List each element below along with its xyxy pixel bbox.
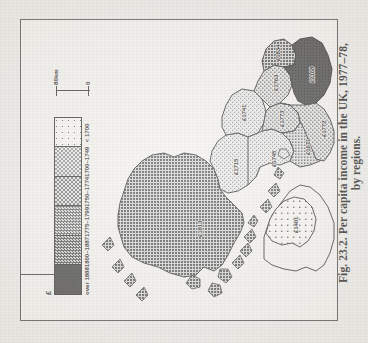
figure-caption-line1: Fig. 23.2. Per capita income in the UK, … <box>337 43 349 283</box>
legend-swatch-bar <box>54 117 82 295</box>
map-label-north: £1715 <box>232 159 239 175</box>
rotated-figure-content: £1813 £1401 £1715 £1741 £1745 £1763 £177… <box>28 19 336 311</box>
figure-plate: £1813 £1401 £1715 £1741 £1745 £1763 £177… <box>20 19 336 319</box>
legend-swatch-under-1700[interactable] <box>55 118 81 147</box>
map-legend: £ over 1888 1800–1887 1775–1799 1750–177… <box>44 119 90 295</box>
legend-label-1775-1799: 1775–1799 <box>83 207 90 237</box>
map-label-north-west: £1745 <box>270 151 277 167</box>
scale-bar-tick-top <box>56 86 57 96</box>
legend-swatch-1800-1887[interactable] <box>55 235 81 265</box>
scale-bar: 80km 0 <box>52 53 92 105</box>
map-label-scotland: £1813 <box>196 221 203 237</box>
legend-label-1700-1749: 1700–1749 <box>83 147 90 177</box>
map-label-yorkshire-humberside: £1741 <box>240 105 247 121</box>
map-label-east-midlands: £1763 <box>272 75 279 91</box>
legend-label-row: over 1888 1800–1887 1775–1799 1750–1774 … <box>83 119 90 295</box>
legend-swatch-1750-1774[interactable] <box>55 176 81 206</box>
map-label-west-midlands: £1773 <box>278 111 285 127</box>
scale-bar-bottom-label: 0 <box>84 82 91 85</box>
legend-label-over-1888: over 1888 <box>83 267 90 295</box>
map-label-south-east: £2168 <box>308 67 315 83</box>
scale-bar-top-label: 80km <box>52 69 59 85</box>
legend-swatch-1700-1749[interactable] <box>55 147 81 177</box>
map-label-south-west: £1772 <box>320 121 327 137</box>
map-label-northern-ireland: £1401 <box>292 217 299 233</box>
legend-label-1800-1887: 1800–1887 <box>83 237 90 267</box>
figure-caption-line2: by regions. <box>350 136 362 191</box>
map-label-wales: £1671 <box>304 139 311 155</box>
figure-caption-container: Fig. 23.2. Per capita income in the UK, … <box>334 0 366 343</box>
legend-label-under-1700: < 1700 <box>83 119 90 147</box>
legend-swatch-over-1888[interactable] <box>55 265 81 295</box>
figure-caption: Fig. 23.2. Per capita income in the UK, … <box>337 29 363 297</box>
scale-bar-tick-bottom <box>88 86 89 96</box>
legend-label-1750-1774: 1750–1774 <box>83 177 90 207</box>
legend-swatch-1775-1799[interactable] <box>55 206 81 236</box>
legend-currency-symbol: £ <box>44 119 53 295</box>
scale-bar-axis <box>56 90 90 91</box>
map-label-east-anglia: £1834 <box>274 45 281 61</box>
